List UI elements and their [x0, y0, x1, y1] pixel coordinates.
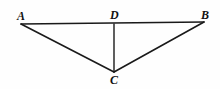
segment-AC	[21, 24, 114, 72]
vertex-label-d: D	[110, 9, 119, 21]
vertex-label-c: C	[110, 74, 118, 86]
segment-CB	[114, 22, 204, 72]
geometry-figure: A D B C	[0, 0, 220, 89]
vertex-label-a: A	[17, 10, 25, 22]
segment-AB	[21, 22, 204, 24]
vertex-label-b: B	[201, 9, 209, 21]
